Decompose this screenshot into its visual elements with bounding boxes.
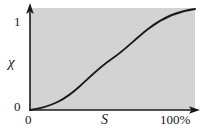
x-axis-tick-label-left: 0: [25, 113, 32, 126]
x-axis-tick-label-right: 100%: [160, 113, 190, 126]
x-axis-title: S: [101, 113, 108, 127]
y-axis-title: χ: [8, 55, 15, 70]
y-axis-tick-label-bottom: 0: [14, 100, 21, 113]
sigmoid-chart-figure: 1 0 χ 0 S 100%: [0, 0, 203, 139]
y-axis-tick-label-top: 1: [14, 15, 21, 28]
